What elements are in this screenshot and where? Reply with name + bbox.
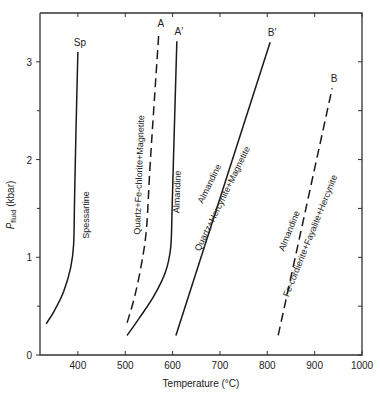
- svg-text:Pfluid(kbar): Pfluid(kbar): [5, 181, 17, 230]
- label-quartz-fe-chlorite-magnetite: Quartz+Fe-chlorite+Magnetite: [132, 115, 146, 235]
- end-label: A: [158, 18, 165, 29]
- y-label-unit: (kbar): [5, 181, 16, 207]
- phase-diagram: 40050060070080090010000123 SpAA′B′BSpess…: [0, 0, 380, 394]
- x-tick-label: 500: [117, 360, 134, 371]
- plot-frame: [40, 13, 362, 355]
- x-axis-label: Temperature (°C): [163, 378, 240, 389]
- label-spessartine: Spessartine: [81, 191, 91, 239]
- y-tick-label: 1: [26, 252, 32, 263]
- y-tick-label: 0: [26, 350, 32, 361]
- label-almandine-a-prime: Almandine: [171, 170, 182, 213]
- y-tick-label: 3: [26, 57, 32, 68]
- x-tick-label: 400: [70, 360, 87, 371]
- curve-labels: SpAA′B′BSpessartineQuartz+Fe-chlorite+Ma…: [74, 18, 340, 299]
- end-label: Sp: [74, 37, 87, 48]
- x-tick-label: 600: [164, 360, 181, 371]
- y-tick-label: 2: [26, 155, 32, 166]
- x-tick-label: 1000: [351, 360, 374, 371]
- end-label: B: [331, 73, 338, 84]
- y-label-sub: fluid: [10, 210, 17, 223]
- end-label: A′: [175, 26, 184, 37]
- y-axis-label: Pfluid(kbar): [5, 181, 17, 230]
- end-label: B′: [268, 27, 277, 38]
- curve-sp: [46, 52, 78, 324]
- x-tick-label: 900: [306, 360, 323, 371]
- x-tick-label: 700: [212, 360, 229, 371]
- x-tick-label: 800: [259, 360, 276, 371]
